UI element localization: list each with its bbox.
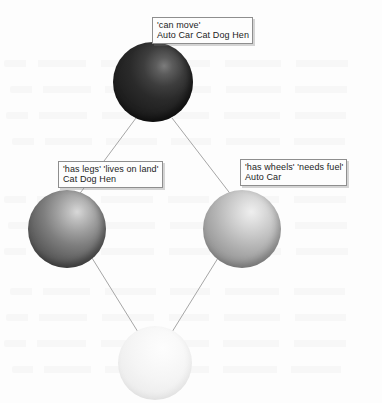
concept-node-top[interactable]	[113, 42, 193, 122]
label-attributes: 'has wheels' 'needs fuel'	[245, 162, 343, 172]
concept-node-right[interactable]	[203, 190, 281, 268]
diagram-canvas: 'can move' Auto Car Cat Dog Hen 'has leg…	[0, 0, 382, 403]
edge-left-bottom	[92, 258, 138, 332]
label-attributes: 'has legs' 'lives on land'	[63, 164, 159, 174]
label-objects: Auto Car Cat Dog Hen	[157, 30, 249, 40]
label-objects: Auto Car	[245, 172, 343, 182]
label-box-top[interactable]: 'can move' Auto Car Cat Dog Hen	[152, 17, 253, 44]
label-objects: Cat Dog Hen	[63, 174, 159, 184]
edge-right-bottom	[172, 258, 218, 332]
label-box-left[interactable]: 'has legs' 'lives on land' Cat Dog Hen	[58, 161, 163, 188]
label-box-right[interactable]: 'has wheels' 'needs fuel' Auto Car	[240, 159, 347, 186]
label-attributes: 'can move'	[157, 20, 249, 30]
concept-node-left[interactable]	[28, 190, 106, 268]
concept-node-bottom[interactable]	[118, 326, 192, 400]
edge-top-right	[172, 118, 232, 196]
